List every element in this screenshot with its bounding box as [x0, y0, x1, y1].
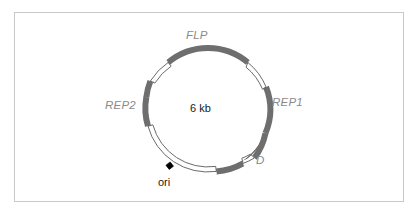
gene-label-flp: FLP [186, 30, 208, 42]
gene-label-rep2: REP2 [105, 100, 136, 112]
arc-segment-inverted-repeat-3 [150, 63, 171, 84]
arc-segment-rep1 [266, 87, 271, 133]
origin-of-replication-label: ori [158, 177, 170, 188]
arc-segment-ori-region [148, 125, 216, 172]
plasmid-size-label: 6 kb [190, 103, 211, 114]
gene-label-d: D [256, 155, 265, 167]
arc-segment-rep2 [145, 97, 148, 126]
arc-segment-rep2-upper [146, 81, 150, 97]
arc-segment-inverted-repeat-1 [246, 63, 266, 90]
arc-segment-inverted-repeat-2 [242, 154, 255, 163]
gene-label-rep1: REP1 [272, 97, 303, 109]
figure-root: FLP REP1 REP2 D ori 6 kb [0, 0, 419, 218]
arc-segment-d [216, 163, 243, 171]
arc-segment-flp [168, 48, 248, 63]
